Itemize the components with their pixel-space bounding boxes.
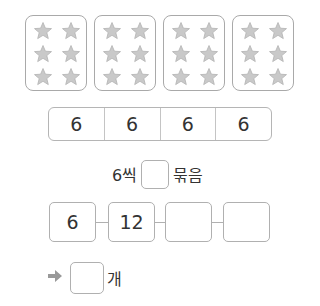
strip-cell: 6 [215, 108, 271, 140]
chain-box-2: 12 [108, 202, 155, 242]
group-count-input[interactable] [141, 160, 169, 189]
addition-strip: 6 6 6 6 [48, 107, 272, 141]
right-arrow-icon [47, 268, 63, 282]
chain-connector [212, 222, 223, 223]
star-icon [171, 44, 191, 64]
star-icon [240, 44, 260, 64]
star-icon [61, 67, 81, 87]
grouping-prefix: 6씩 [112, 162, 137, 186]
chain-box-4-input[interactable] [223, 202, 270, 242]
star-icon [199, 67, 219, 87]
star-icon [240, 67, 260, 87]
star-icon [268, 67, 288, 87]
strip-cell: 6 [104, 108, 160, 140]
star-icon [130, 21, 150, 41]
star-icon [130, 67, 150, 87]
star-icon [268, 21, 288, 41]
grouping-sentence: 6씩 묶음 [112, 159, 203, 189]
strip-cell: 6 [49, 108, 104, 140]
star-icon [171, 67, 191, 87]
star-group-3 [163, 15, 225, 91]
star-icon [199, 44, 219, 64]
chain-connector [154, 222, 165, 223]
star-icon [102, 67, 122, 87]
star-icon [61, 44, 81, 64]
strip-cell: 6 [160, 108, 216, 140]
star-group-4 [232, 15, 294, 91]
star-icon [33, 44, 53, 64]
star-icon [268, 44, 288, 64]
chain-connector [95, 222, 108, 223]
star-icon [102, 21, 122, 41]
star-icon [171, 21, 191, 41]
star-icon [33, 67, 53, 87]
star-icon [33, 21, 53, 41]
star-icon [61, 21, 81, 41]
answer-unit: 개 [107, 266, 122, 290]
star-icon [199, 21, 219, 41]
star-group-1 [25, 15, 87, 91]
star-group-2 [94, 15, 156, 91]
grouping-suffix: 묶음 [173, 162, 203, 186]
star-icon [102, 44, 122, 64]
chain-box-3-input[interactable] [165, 202, 212, 242]
chain-box-1: 6 [49, 202, 96, 242]
star-icon [130, 44, 150, 64]
answer-input[interactable] [70, 262, 104, 294]
star-icon [240, 21, 260, 41]
